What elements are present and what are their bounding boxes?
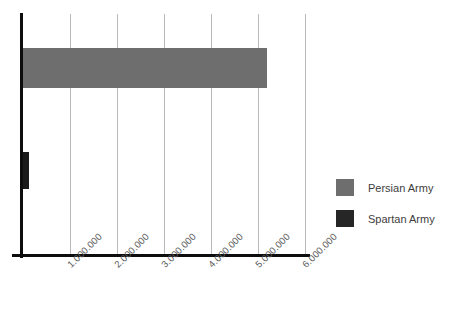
bar-spartan-army (23, 152, 29, 189)
legend-item-spartan-army: Spartan Army (336, 203, 456, 234)
plot-area: 1.000.000 2.000.000 3.000.000 4.000.000 … (0, 0, 330, 326)
legend-label-spartan-army: Spartan Army (368, 213, 435, 225)
legend-swatch-persian-army (336, 179, 354, 196)
legend-label-persian-army: Persian Army (368, 182, 433, 194)
bar-persian-army (23, 48, 267, 88)
bar-chart: 1.000.000 2.000.000 3.000.000 4.000.000 … (0, 0, 459, 326)
legend-swatch-spartan-army (336, 210, 354, 227)
legend-item-persian-army: Persian Army (336, 172, 456, 203)
chart-legend: Persian Army Spartan Army (336, 172, 456, 234)
gridline-6000000 (305, 14, 306, 256)
